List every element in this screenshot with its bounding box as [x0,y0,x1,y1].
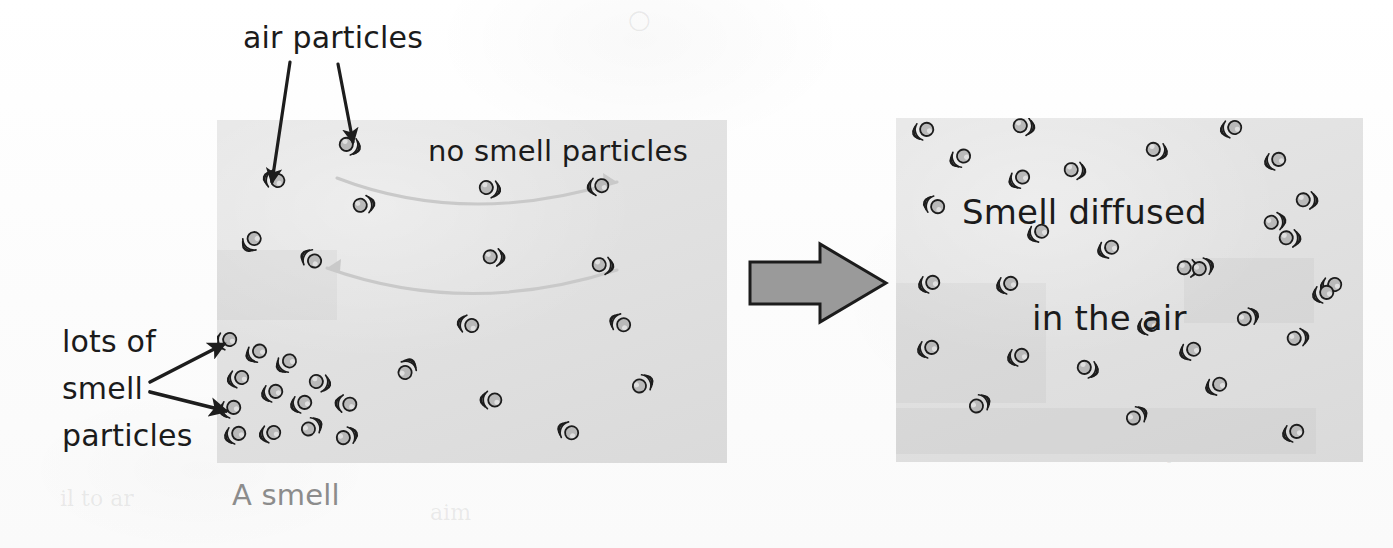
label-smell: smell [62,371,143,406]
particle-right-22 [1007,343,1033,369]
particle-right-24 [1179,337,1205,363]
label-in-the-air: in the air [1032,298,1187,338]
particle-right-8 [1292,187,1318,213]
caption-a-smell: A smell [232,478,340,512]
particle-right-29 [1282,419,1308,445]
after-diffusion-panel [896,118,1363,462]
particle-right-4 [1264,147,1290,173]
diffusion-diagram: ○ Oxilo il il xia aim e olil of bereal e… [0,0,1393,548]
label-no-smell-particles: no smell particles [428,134,688,168]
particle-right-15 [918,270,944,296]
ghost-text-7: aim [430,500,471,525]
particle-right-23 [1073,355,1099,381]
particle-right-16 [996,271,1022,297]
ghost-text-1: ○ [628,4,651,34]
particle-right-9 [923,193,949,219]
particle-right-3 [1220,118,1246,141]
particle-right-1 [1009,118,1035,139]
label-particles: particles [62,418,193,453]
panel-right-smudge-1 [896,283,1046,403]
before-diffusion-panel [217,120,727,463]
particle-right-5 [949,144,975,170]
label-air-particles: air particles [243,20,423,55]
ghost-text-6: il to ar [60,486,134,511]
diffusion-arcs-left [217,120,727,463]
particle-right-30 [1205,372,1231,398]
label-smell-diffused: Smell diffused [962,192,1207,232]
particle-right-12 [1275,225,1301,251]
label-lots-of: lots of [62,324,156,359]
particle-right-11 [1260,209,1286,235]
particle-right-17 [1320,272,1346,298]
panel-right-smudge-2 [1184,258,1314,323]
pointer-arrow-smell-2 [150,392,226,411]
particle-right-18 [1188,255,1214,281]
particle-right-13 [1097,235,1123,261]
particle-right-27 [965,392,991,418]
particle-right-28 [1122,404,1148,430]
particle-right-21 [917,335,943,361]
particle-right-0 [912,118,938,143]
panel-right-tint [896,118,1363,462]
particle-right-6 [1060,157,1086,183]
particle-right-20 [1233,305,1259,331]
particle-right-7 [1008,165,1034,191]
particle-right-14 [1173,255,1199,281]
panel-right-smudge-3 [896,408,1316,454]
particle-right-25 [1283,325,1309,351]
particle-right-2 [1142,137,1168,163]
particle-right-26 [1312,280,1338,306]
pointer-arrow-smell-1 [150,344,224,382]
transition-arrow [750,244,886,322]
